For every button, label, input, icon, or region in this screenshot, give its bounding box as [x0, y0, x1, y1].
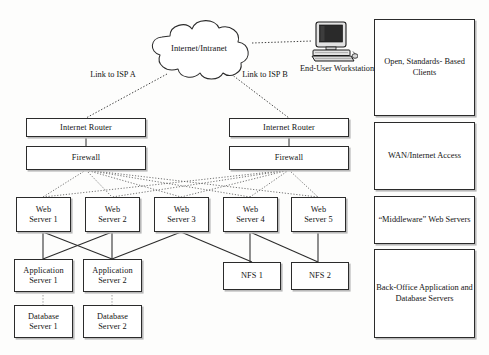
link-cloud-to-workstation	[252, 41, 312, 43]
firewall-b-label: Firewall	[275, 153, 303, 162]
application-server-2-line2: Server 2	[92, 276, 132, 285]
database-server-2-line2: Server 2	[97, 322, 128, 331]
legend-2-line1: WAN/Internet	[388, 151, 435, 160]
isp-a-link-line1: Link to	[90, 70, 114, 79]
nfs-server-1-label: NFS 1	[241, 271, 263, 280]
legend-box-back-office-application-database-servers: Back-Office Application and Database Ser…	[374, 249, 475, 338]
database-server-1-line1: Database	[28, 312, 59, 321]
workstation-label-line1: End-User	[300, 64, 332, 73]
isp-b-link-line1: Link to	[242, 70, 266, 79]
isp-b-link-line2: ISP B	[268, 70, 287, 79]
isp-a-link-line2: ISP A	[116, 70, 135, 79]
web-server-2-line2: Server 2	[98, 215, 127, 224]
node-firewall-b[interactable]: Firewall	[229, 146, 349, 170]
web-server-3-line2: Server 3	[167, 215, 196, 224]
node-web-server-1[interactable]: Web Server 1	[16, 197, 71, 232]
legend-box-wan-internet-access: WAN/Internet Access	[374, 122, 475, 190]
web-server-5-line2: Server 5	[304, 215, 333, 224]
mesh-firewall-a-to-web-servers	[43, 170, 318, 197]
isp-b-link-label: Link to ISP B	[240, 70, 290, 79]
node-web-server-2[interactable]: Web Server 2	[85, 197, 140, 232]
application-server-1-line2: Server 1	[23, 276, 63, 285]
links-web-to-application-servers	[43, 232, 181, 259]
application-server-2-line1: Application	[92, 266, 132, 275]
web-server-4-line1: Web	[236, 205, 265, 214]
node-nfs-server-1[interactable]: NFS 1	[223, 262, 281, 290]
internet-router-b-label: Internet Router	[263, 123, 315, 132]
network-architecture-diagram: Internet/Intranet End-User Workstation L…	[0, 0, 489, 355]
node-database-server-1[interactable]: Database Server 1	[14, 305, 73, 338]
web-server-1-line1: Web	[29, 205, 58, 214]
web-server-1-line2: Server 1	[29, 215, 58, 224]
database-server-2-line1: Database	[97, 312, 128, 321]
internet-router-a-label: Internet Router	[60, 123, 112, 132]
legend-4-line1: Back-Office	[376, 283, 417, 292]
legend-box-open-standards-based-clients: Open, Standards- Based Clients	[374, 19, 475, 116]
links-application-to-database-servers	[43, 292, 112, 305]
legend-3-line1: “Middleware”	[378, 215, 426, 224]
node-database-server-2[interactable]: Database Server 2	[83, 305, 142, 338]
database-server-1-line2: Server 1	[28, 322, 59, 331]
node-internet-router-a[interactable]: Internet Router	[26, 118, 146, 137]
web-server-4-line2: Server 4	[236, 215, 265, 224]
links-web-to-nfs-servers	[181, 232, 318, 262]
node-application-server-2[interactable]: Application Server 2	[83, 259, 142, 292]
legend-1-line2: Standards-	[406, 57, 442, 66]
workstation-label-line2: Workstation	[334, 64, 374, 73]
firewall-a-label: Firewall	[72, 153, 100, 162]
legend-box-middleware-web-servers: “Middleware” Web Servers	[374, 196, 475, 244]
web-server-2-line1: Web	[98, 205, 127, 214]
legend-1-line1: Open,	[384, 57, 404, 66]
node-nfs-server-2[interactable]: NFS 2	[291, 262, 349, 290]
node-web-server-4[interactable]: Web Server 4	[223, 197, 278, 232]
workstation-label: End-User Workstation	[300, 64, 368, 73]
legend-3-line2: Web Servers	[428, 215, 470, 224]
isp-a-link-label: Link to ISP A	[88, 70, 138, 79]
web-server-3-line1: Web	[167, 205, 196, 214]
desktop-computer-icon	[310, 20, 358, 64]
legend-4-line2: Application and	[419, 283, 473, 292]
nfs-server-2-label: NFS 2	[309, 271, 331, 280]
node-internet-router-b[interactable]: Internet Router	[229, 118, 349, 137]
cloud-label: Internet/Intranet	[140, 43, 258, 53]
web-server-5-line1: Web	[304, 205, 333, 214]
node-application-server-1[interactable]: Application Server 1	[14, 259, 73, 292]
application-server-1-line1: Application	[23, 266, 63, 275]
legend-4-line3: Database Servers	[396, 294, 454, 303]
mesh-firewall-b-to-web-servers	[43, 170, 318, 197]
legend-2-line2: Access	[437, 151, 461, 160]
node-web-server-5[interactable]: Web Server 5	[291, 197, 346, 232]
node-firewall-a[interactable]: Firewall	[26, 146, 146, 170]
node-web-server-3[interactable]: Web Server 3	[154, 197, 209, 232]
